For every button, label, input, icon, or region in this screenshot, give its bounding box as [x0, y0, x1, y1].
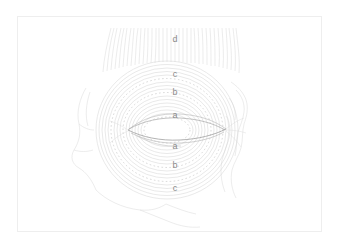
zone-boundary-b-a-dashed	[123, 93, 211, 168]
label-b-top: b	[172, 88, 177, 97]
cheek-contour-lower	[96, 190, 200, 227]
orbicularis-middle-rings-b	[114, 82, 220, 178]
zone-boundary-a-inner-dashed	[144, 117, 190, 143]
temple-contour-left	[72, 88, 96, 190]
label-a-bottom: a	[172, 142, 177, 151]
label-c-bottom: c	[173, 184, 178, 193]
label-d-top: d	[172, 35, 177, 44]
orbicularis-outer-rings-c	[96, 61, 238, 199]
frontalis-fibers-group	[103, 28, 239, 73]
label-a-top: a	[172, 111, 177, 120]
screenshot-root: d c b a a b c	[0, 0, 339, 249]
label-c-top: c	[173, 70, 178, 79]
anatomical-illustration	[0, 0, 339, 249]
label-b-bottom: b	[172, 161, 177, 170]
orbicularis-inner-rings-a	[126, 96, 208, 164]
